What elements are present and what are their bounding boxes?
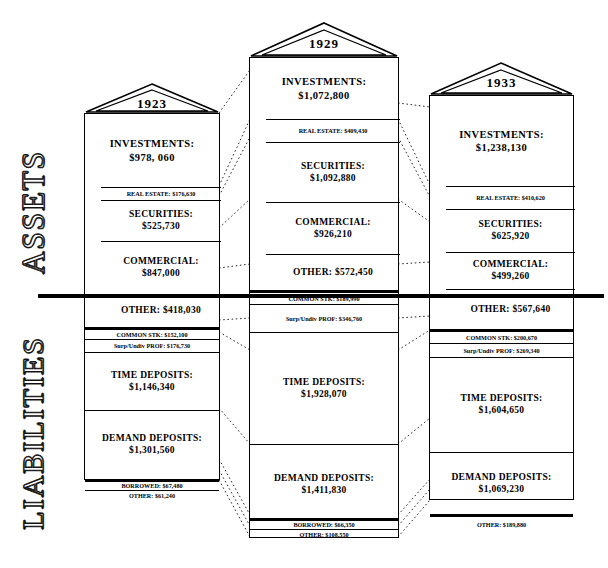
band-1929-surplus-profit: Surp/Undiv PROF: $346,760 — [250, 304, 398, 332]
band-1929-demand-deposits: DEMAND DEPOSITS: $1,411,830 — [250, 444, 398, 525]
band-1923-commercial: COMMERCIAL: $847,000 — [101, 241, 221, 294]
band-value: $1,072,800 — [282, 89, 367, 102]
band-label: BORROWED: $66,350 — [293, 521, 354, 529]
band-1923-real-estate: REAL ESTATE: $176,630 — [101, 187, 221, 200]
band-label: REAL ESTATE: $176,630 — [127, 190, 196, 198]
band-label: SECURITIES: — [301, 161, 365, 173]
band-label: Surp/Undiv PROF: $269,340 — [463, 347, 539, 355]
band-value: $1,092,880 — [301, 173, 365, 185]
band-1933-common-stock: COMMON STK: $200,670 — [430, 329, 573, 343]
band-label: SECURITIES: — [129, 209, 193, 221]
figure-canvas: ASSETS LIABILITIES 1923 INVESTMENTS: $97… — [0, 0, 608, 568]
band-value: $1,301,560 — [102, 445, 202, 457]
band-1933-other-liabilities: OTHER: $189,880 — [430, 514, 573, 533]
column-1933: 1933 INVESTMENTS: $1,238,130 REAL ESTATE… — [429, 62, 574, 500]
liabilities-axis-label: LIABILITIES — [16, 336, 50, 530]
band-1923-common-stock: COMMON STK: $152,100 — [85, 327, 219, 339]
band-label: COMMERCIAL: — [295, 217, 371, 229]
band-label: OTHER: $567,640 — [471, 304, 551, 316]
band-1929-real-estate: REAL ESTATE: $409,430 — [266, 119, 400, 142]
band-label: COMMERCIAL: — [123, 256, 199, 268]
band-label: REAL ESTATE: $409,430 — [299, 127, 368, 135]
band-value: $1,146,340 — [111, 382, 193, 394]
band-label: INVESTMENTS: — [282, 75, 367, 88]
band-value: $1,411,830 — [274, 485, 374, 497]
band-value: $847,000 — [123, 268, 199, 280]
roof-1929: 1929 — [249, 22, 399, 58]
band-1929-investments: INVESTMENTS: $1,072,800 — [250, 58, 398, 119]
band-label: OTHER: $418,030 — [121, 305, 201, 317]
band-1929-other-assets: OTHER: $572,450 — [266, 254, 400, 290]
band-label: OTHER: $61,240 — [129, 492, 175, 500]
band-label: Surp/Undiv PROF: $176,730 — [114, 342, 190, 350]
band-label: OTHER: $189,880 — [477, 521, 526, 529]
band-1923-surplus-profit: Surp/Undiv PROF: $176,730 — [85, 339, 219, 352]
band-1923-time-deposits: TIME DEPOSITS: $1,146,340 — [85, 352, 219, 410]
band-label: REAL ESTATE: $410,620 — [476, 194, 545, 202]
band-label: TIME DEPOSITS: — [460, 393, 542, 405]
band-1933-securities: SECURITIES: $625,920 — [446, 209, 575, 252]
band-1933-demand-deposits: DEMAND DEPOSITS: $1,069,230 — [430, 452, 573, 514]
column-1929: 1929 INVESTMENTS: $1,072,800 REAL ESTATE… — [249, 22, 399, 538]
band-label: COMMON STK: $200,670 — [466, 334, 537, 342]
band-label: SECURITIES: — [478, 219, 542, 231]
band-value: $525,730 — [129, 221, 193, 233]
band-label: TIME DEPOSITS: — [283, 377, 365, 389]
band-1929-borrowed: BORROWED: $66,350 — [250, 518, 398, 529]
band-label: COMMON STK: $152,100 — [117, 331, 188, 339]
band-1929-commercial: COMMERCIAL: $926,210 — [266, 202, 400, 254]
band-1929-securities: SECURITIES: $1,092,880 — [266, 142, 400, 202]
band-label: OTHER: $572,450 — [293, 267, 373, 279]
band-label: COMMERCIAL: — [473, 259, 549, 271]
year-label-1923: 1923 — [84, 96, 220, 112]
band-1923-investments: INVESTMENTS: $978, 060 — [85, 114, 219, 187]
band-value: $1,069,230 — [451, 484, 551, 496]
band-1923-borrowed: BORROWED: $67,480 — [85, 479, 219, 490]
band-1923-other-liabilities: OTHER: $61,240 — [85, 490, 219, 501]
roof-1933: 1933 — [429, 62, 574, 96]
band-1933-commercial: COMMERCIAL: $499,260 — [446, 252, 575, 289]
band-1923-other-assets: OTHER: $418,030 — [101, 294, 221, 327]
band-value: $1,238,130 — [459, 141, 544, 154]
band-value: $625,920 — [478, 231, 542, 243]
band-1933-time-deposits: TIME DEPOSITS: $1,604,650 — [430, 357, 573, 452]
band-1933-real-estate: REAL ESTATE: $410,620 — [446, 186, 575, 209]
band-1929-time-deposits: TIME DEPOSITS: $1,928,070 — [250, 332, 398, 444]
band-label: INVESTMENTS: — [459, 128, 544, 141]
year-label-1933: 1933 — [429, 75, 574, 91]
band-label: DEMAND DEPOSITS: — [451, 472, 551, 484]
band-value: $499,260 — [473, 271, 549, 283]
band-1933-surplus-profit: Surp/Undiv PROF: $269,340 — [430, 343, 573, 357]
year-label-1929: 1929 — [249, 36, 399, 52]
band-1933-investments: INVESTMENTS: $1,238,130 — [430, 96, 573, 186]
band-label: DEMAND DEPOSITS: — [274, 473, 374, 485]
band-label: BORROWED: $67,480 — [121, 482, 182, 490]
band-1923-securities: SECURITIES: $525,730 — [101, 200, 221, 241]
band-label: Surp/Undiv PROF: $346,760 — [286, 315, 362, 323]
column-1923: 1923 INVESTMENTS: $978, 060 REAL ESTATE:… — [84, 83, 220, 480]
band-label: TIME DEPOSITS: — [111, 370, 193, 382]
band-value: $1,604,650 — [460, 405, 542, 417]
band-label: OTHER: $108,550 — [299, 531, 348, 539]
band-value: $978, 060 — [110, 151, 195, 164]
band-label: INVESTMENTS: — [110, 137, 195, 150]
assets-axis-label: ASSETS — [16, 150, 52, 274]
band-1923-demand-deposits: DEMAND DEPOSITS: $1,301,560 — [85, 410, 219, 479]
roof-1923: 1923 — [84, 83, 220, 114]
band-1929-other-liabilities: OTHER: $108,550 — [250, 529, 398, 540]
band-value: $1,928,070 — [283, 389, 365, 401]
band-value: $926,210 — [295, 229, 371, 241]
assets-liabilities-divider — [38, 294, 604, 298]
band-label: DEMAND DEPOSITS: — [102, 433, 202, 445]
